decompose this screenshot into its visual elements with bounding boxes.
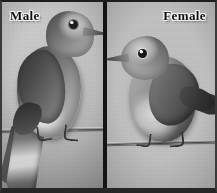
panel-male: Male — [2, 2, 103, 188]
bird-comparison-figure: Male Female — [0, 0, 217, 193]
female-foot-left — [136, 132, 152, 148]
male-foot-left — [36, 125, 52, 142]
male-foot-right — [63, 124, 80, 141]
female-foot-right — [168, 131, 184, 147]
male-eye — [69, 20, 78, 29]
panel-label-male: Male — [7, 8, 43, 24]
panel-label-female: Female — [160, 8, 209, 24]
male-bird — [4, 6, 103, 188]
female-bird — [107, 32, 215, 172]
panel-divider — [103, 2, 107, 188]
female-eye — [138, 49, 147, 58]
panel-female: Female — [107, 2, 215, 188]
